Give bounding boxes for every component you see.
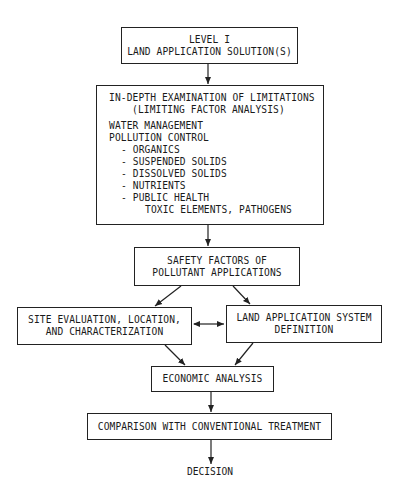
node-level-one-solutions: LEVEL I LAND APPLICATION SOLUTION(S) [121, 27, 298, 64]
node-text: LAND APPLICATION SYSTEM [236, 312, 371, 324]
arrow-safety-to-site [155, 286, 181, 306]
limitation-subitem: - DISSOLVED SOLIDS [109, 168, 323, 180]
arrow-system-to-economic [235, 343, 253, 365]
decision-label: DECISION [160, 466, 260, 478]
limitation-detail: TOXIC ELEMENTS, PATHOGENS [109, 204, 323, 216]
arrow-site-to-economic [165, 345, 185, 365]
node-economic-analysis: ECONOMIC ANALYSIS [151, 366, 274, 392]
node-text: SAFETY FACTORS OF [167, 255, 267, 267]
node-heading: IN-DEPTH EXAMINATION OF LIMITATIONS [109, 92, 323, 104]
node-text: ECONOMIC ANALYSIS [163, 373, 263, 385]
node-system-definition: LAND APPLICATION SYSTEM DEFINITION [226, 305, 382, 343]
node-text: LEVEL I [189, 34, 230, 46]
limitation-item: WATER MANAGEMENT [109, 120, 323, 132]
arrow-safety-to-system [233, 286, 250, 304]
node-safety-factors: SAFETY FACTORS OF POLLUTANT APPLICATIONS [134, 247, 300, 286]
limitation-item: POLLUTION CONTROL [109, 132, 323, 144]
limitation-subitem: - ORGANICS [109, 144, 323, 156]
node-text: COMPARISON WITH CONVENTIONAL TREATMENT [98, 421, 321, 433]
node-comparison: COMPARISON WITH CONVENTIONAL TREATMENT [87, 413, 332, 440]
limitation-subitem: - SUSPENDED SOLIDS [109, 156, 323, 168]
node-text: POLLUTANT APPLICATIONS [152, 267, 281, 279]
node-text: LAND APPLICATION SOLUTION(S) [127, 46, 292, 58]
limitation-subitem: - PUBLIC HEALTH [109, 192, 323, 204]
node-site-evaluation: SITE EVALUATION, LOCATION, AND CHARACTER… [17, 307, 192, 345]
node-text: AND CHARACTERIZATION [46, 326, 164, 338]
node-text: SITE EVALUATION, LOCATION, [28, 314, 181, 326]
node-text: DEFINITION [275, 324, 334, 336]
node-in-depth-examination: IN-DEPTH EXAMINATION OF LIMITATIONS (LIM… [96, 85, 324, 225]
limitation-subitem: - NUTRIENTS [109, 180, 323, 192]
node-subheading: (LIMITING FACTOR ANALYSIS) [109, 104, 323, 116]
